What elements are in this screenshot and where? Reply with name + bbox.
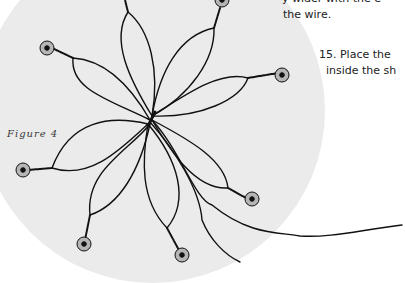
- instruction-line: the wire.: [283, 8, 331, 21]
- instruction-line: inside the sh: [326, 64, 396, 77]
- instruction-line: y wider with the e: [282, 0, 381, 5]
- figure-caption: Figure 4: [7, 128, 58, 139]
- instruction-step-15: 15. Place the: [319, 48, 391, 61]
